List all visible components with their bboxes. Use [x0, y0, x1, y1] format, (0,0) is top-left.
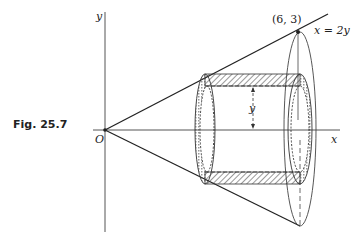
- radius-label: y: [248, 102, 256, 115]
- point-6-3: [296, 30, 300, 34]
- radius-arrow-down: [251, 124, 255, 129]
- figure-caption: Fig. 25.7: [13, 118, 67, 131]
- shell-left-ring-fill: [195, 74, 207, 184]
- point-label: (6, 3): [272, 13, 302, 26]
- shell-left-inner-ring: [200, 86, 214, 172]
- line-equation-label: x = 2y: [314, 24, 350, 37]
- shell-bottom-band: [205, 172, 300, 184]
- origin-label: O: [95, 133, 104, 146]
- radius-arrow-up: [251, 87, 255, 92]
- y-axis-label: y: [95, 10, 103, 23]
- shell-top-band: [205, 74, 300, 86]
- solid-of-revolution-diagram: Fig. 25.7 y x O y (6, 3) x = 2y: [0, 0, 362, 246]
- x-axis-label: x: [331, 133, 338, 146]
